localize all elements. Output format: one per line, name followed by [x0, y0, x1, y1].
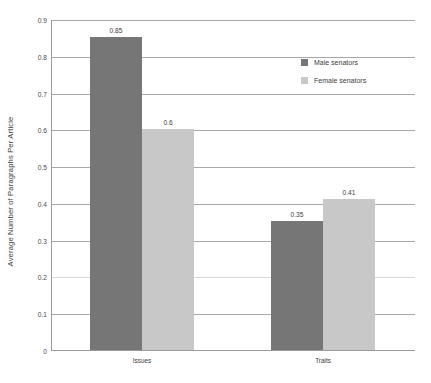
y-axis-tick-label: 0.6 — [38, 127, 47, 134]
y-axis-tick-label: 0.7 — [38, 90, 47, 97]
legend: Male senators Female senators — [301, 56, 366, 92]
y-axis-title: Average Number of Paragraphs Per Article — [0, 0, 20, 383]
y-axis-tick-label: 0.9 — [38, 17, 47, 24]
bar-value-label: 0.6 — [163, 119, 172, 126]
bar[interactable]: 0.35 — [271, 221, 323, 350]
y-axis-tick-label: 0.2 — [38, 274, 47, 281]
y-axis-tick-label: 0.8 — [38, 53, 47, 60]
bar-value-label: 0.41 — [343, 189, 356, 196]
bar[interactable]: 0.85 — [90, 37, 142, 350]
legend-swatch-icon — [301, 77, 308, 84]
gridline — [52, 20, 415, 21]
legend-item-label: Male senators — [314, 59, 358, 66]
y-axis-tick-label: 0.4 — [38, 200, 47, 207]
legend-item[interactable]: Female senators — [301, 74, 366, 87]
y-axis-tick-label: 0.5 — [38, 164, 47, 171]
plot-area: 0.90.80.70.60.50.40.30.20.10 0.850.60.35… — [51, 20, 415, 351]
x-axis-category-label: Issues — [133, 357, 151, 364]
bar[interactable]: 0.6 — [142, 129, 194, 350]
bar-chart: Average Number of Paragraphs Per Article… — [0, 0, 431, 383]
y-axis-tick-label: 0.3 — [38, 237, 47, 244]
bar[interactable]: 0.41 — [323, 199, 375, 350]
x-axis-category-label: Traits — [315, 357, 331, 364]
y-axis-tick-label: 0 — [43, 348, 47, 355]
legend-swatch-icon — [301, 59, 308, 66]
y-axis-tick-label: 0.1 — [38, 311, 47, 318]
bar-value-label: 0.85 — [110, 27, 123, 34]
legend-item-label: Female senators — [314, 77, 366, 84]
bar-value-label: 0.35 — [291, 211, 304, 218]
legend-item[interactable]: Male senators — [301, 56, 366, 69]
